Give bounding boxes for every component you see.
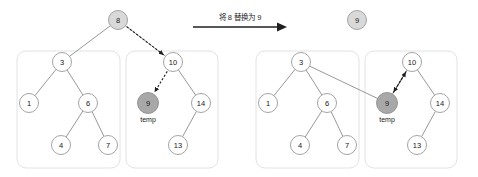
tree-node[interactable]: 6 [318,94,337,113]
tree-node[interactable]: 1 [259,94,278,113]
tree-node[interactable]: 10 [403,53,422,72]
node-value-label: 1 [27,99,31,108]
root-node[interactable]: 9 [348,11,367,30]
root-node[interactable]: 8 [109,11,128,30]
node-value-label: 9 [146,99,150,108]
diagram-canvas: 31647109temp14138 31647109temp14139 将 8 … [0,0,478,177]
node-value-label: 8 [116,16,120,25]
node-value-label: 10 [408,58,416,67]
tree-node[interactable]: 14 [192,94,211,113]
node-value-label: 14 [197,99,205,108]
node-value-label: 7 [106,141,110,150]
tree-node[interactable]: 10 [164,53,183,72]
node-value-label: 3 [60,58,64,67]
node-value-label: 1 [266,99,270,108]
node-value-label: 6 [86,99,90,108]
tree-node[interactable]: 9temp [377,93,398,124]
tree-node[interactable]: 1 [20,94,39,113]
node-value-label: 13 [413,141,421,150]
node-value-label: 7 [345,141,349,150]
node-value-label: 14 [436,99,444,108]
tree-node[interactable]: 9temp [138,93,159,124]
node-value-label: 4 [298,141,302,150]
node-value-label: 6 [325,99,329,108]
tree-node[interactable]: 13 [408,136,427,155]
tree-node[interactable]: 7 [99,136,118,155]
tree-node[interactable]: 3 [292,53,311,72]
tree-node[interactable]: 4 [291,136,310,155]
tree-node[interactable]: 4 [52,136,71,155]
node-value-label: 9 [385,99,389,108]
tree-node[interactable]: 6 [79,94,98,113]
node-value-label: 4 [59,141,63,150]
tree-node[interactable]: 14 [431,94,450,113]
tree-node[interactable]: 7 [338,136,357,155]
transition-caption: 将 8 替换为 9 [191,11,289,22]
node-value-label: 10 [169,58,177,67]
node-value-label: 13 [174,141,182,150]
temp-pointer-label: temp [379,116,395,124]
tree-node[interactable]: 3 [53,53,72,72]
node-value-label: 9 [355,16,359,25]
tree-node[interactable]: 13 [169,136,188,155]
node-value-label: 3 [299,58,303,67]
temp-pointer-label: temp [140,116,156,124]
